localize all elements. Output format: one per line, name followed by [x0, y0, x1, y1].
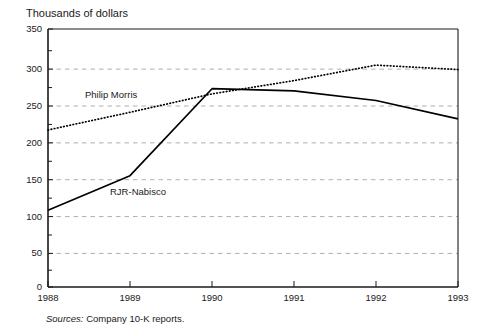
series-label-rjr-nabisco: RJR-Nabisco [110, 186, 166, 197]
chart-plot-area [0, 0, 479, 336]
xtick-label-1988: 1988 [25, 293, 71, 303]
source-note-text: Company 10-K reports. [84, 313, 185, 324]
source-note: Sources: Company 10-K reports. [46, 313, 184, 325]
xtick-label-1989: 1989 [107, 293, 153, 303]
plot-frame [48, 29, 458, 287]
ytick-label-150: 150 [12, 175, 42, 185]
ytick-label-100: 100 [12, 212, 42, 222]
ytick-label-200: 200 [12, 138, 42, 148]
series-label-philip-morris: Philip Morris [85, 89, 137, 100]
chart-figure: Thousands of dollars [0, 0, 479, 336]
xtick-label-1991: 1991 [271, 293, 317, 303]
xtick-label-1992: 1992 [353, 293, 399, 303]
ytick-label-350: 350 [12, 24, 42, 34]
x-axis-ticks [48, 281, 458, 287]
ytick-label-0: 0 [12, 282, 42, 292]
source-note-label: Sources: [46, 313, 84, 324]
xtick-label-1990: 1990 [189, 293, 235, 303]
ytick-label-300: 300 [12, 64, 42, 74]
xtick-label-1993: 1993 [435, 293, 479, 303]
ytick-label-250: 250 [12, 101, 42, 111]
ytick-label-50: 50 [12, 248, 42, 258]
